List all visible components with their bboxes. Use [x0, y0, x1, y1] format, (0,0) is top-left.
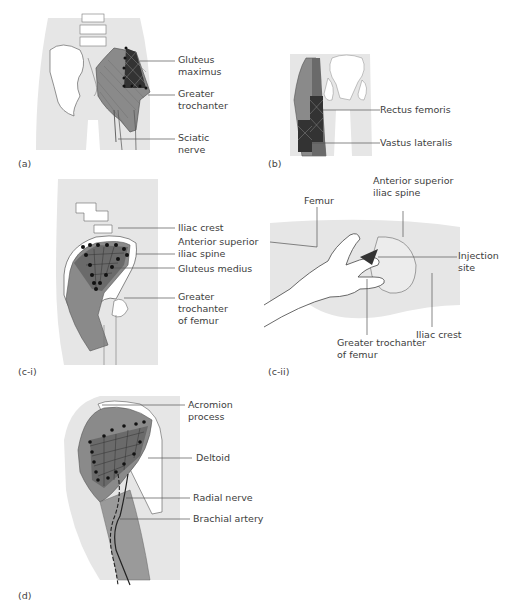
- panel-b-vastus-lateralis: Rectus femoris Vastus lateralis: [250, 0, 509, 160]
- label-gluteus-medius: Gluteus medius: [178, 263, 252, 275]
- label-radial-nerve: Radial nerve: [193, 492, 253, 504]
- label-vastus-lateralis: Vastus lateralis: [380, 137, 452, 149]
- label-acromion-process: Acromion process: [188, 399, 233, 423]
- panel-c-i-ventrogluteal: Iliac crest Anterior superior iliac spin…: [0, 175, 260, 365]
- caption-c-ii: (c-ii): [268, 366, 289, 377]
- label-sciatic-nerve: Sciatic nerve: [178, 132, 209, 156]
- label-iliac-crest-c2: Iliac crest: [416, 329, 462, 341]
- panel-a-dorsogluteal: Gluteus maximus Greater trochanter Sciat…: [0, 0, 250, 150]
- caption-d: (d): [18, 590, 31, 601]
- panel-c-ii-hand-placement: Femur Anterior superior iliac spine Inje…: [260, 185, 509, 365]
- caption-c-i: (c-i): [18, 366, 37, 377]
- label-rectus-femoris: Rectus femoris: [380, 104, 451, 116]
- thigh-illustration: [250, 0, 509, 160]
- label-greater-trochanter-of-femur: Greater trochanter of femur: [178, 291, 228, 327]
- label-greater-trochanter: Greater trochanter: [178, 88, 228, 112]
- label-anterior-superior-iliac-spine: Anterior superior iliac spine: [178, 236, 258, 260]
- label-injection-site: Injection site: [458, 250, 499, 274]
- caption-b: (b): [268, 158, 281, 169]
- label-greater-trochanter-of-femur-c2: Greater trochanter of femur: [337, 337, 426, 361]
- label-brachial-artery: Brachial artery: [193, 513, 263, 525]
- label-iliac-crest: Iliac crest: [178, 222, 224, 234]
- label-deltoid: Deltoid: [196, 452, 230, 464]
- label-anterior-superior-iliac-spine-c2: Anterior superior iliac spine: [373, 175, 453, 199]
- label-gluteus-maximus: Gluteus maximus: [178, 54, 222, 78]
- caption-a: (a): [18, 158, 31, 169]
- label-femur: Femur: [304, 195, 334, 207]
- panel-d-deltoid: Acromion process Deltoid Radial nerve Br…: [0, 390, 260, 590]
